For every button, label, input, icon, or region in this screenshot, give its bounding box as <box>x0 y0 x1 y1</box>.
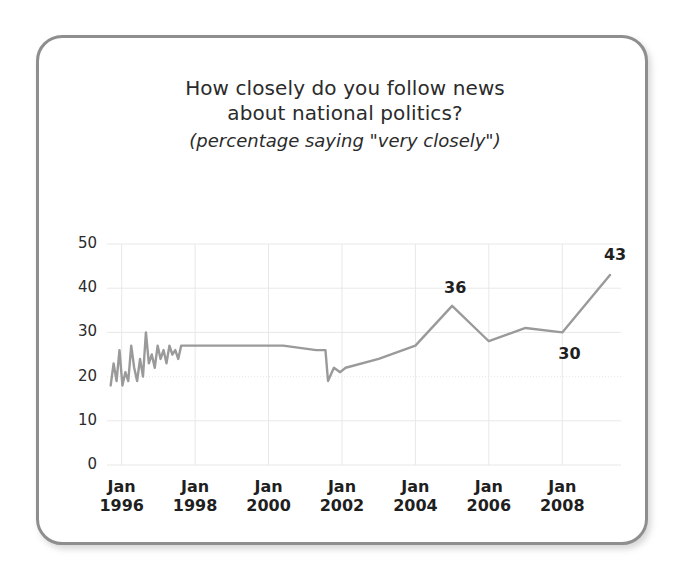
x-axis-tick-2004: Jan2004 <box>383 477 447 515</box>
x-tick-month: Jan <box>163 477 227 496</box>
horizontal-gridlines <box>107 244 621 465</box>
x-axis-tick-2008: Jan2008 <box>530 477 594 515</box>
x-axis-tick-2006: Jan2006 <box>457 477 521 515</box>
x-tick-year: 2006 <box>457 496 521 515</box>
vertical-gridlines <box>122 244 563 465</box>
y-axis-tick-30: 30 <box>63 324 97 339</box>
y-axis-tick-40: 40 <box>63 280 97 295</box>
trough-2008-label: 30 <box>558 346 580 362</box>
x-tick-year: 2002 <box>310 496 374 515</box>
x-tick-year: 1998 <box>163 496 227 515</box>
x-tick-month: Jan <box>90 477 154 496</box>
x-axis-tick-2000: Jan2000 <box>237 477 301 515</box>
x-tick-year: 2000 <box>237 496 301 515</box>
y-axis-tick-50: 50 <box>63 236 97 251</box>
plot-area: 01020304050 Jan1996Jan1998Jan2000Jan2002… <box>39 38 651 548</box>
y-axis-tick-10: 10 <box>63 413 97 428</box>
peak-2005-label: 36 <box>444 280 466 296</box>
x-tick-month: Jan <box>237 477 301 496</box>
x-tick-month: Jan <box>530 477 594 496</box>
x-axis-tick-1996: Jan1996 <box>90 477 154 515</box>
y-axis-tick-20: 20 <box>63 369 97 384</box>
x-axis-tick-1998: Jan1998 <box>163 477 227 515</box>
y-axis-tick-0: 0 <box>63 457 97 472</box>
end-2009-label: 43 <box>604 247 626 263</box>
x-tick-year: 2004 <box>383 496 447 515</box>
chart-canvas <box>39 38 651 548</box>
x-tick-month: Jan <box>383 477 447 496</box>
data-line-series <box>111 275 610 386</box>
x-tick-year: 2008 <box>530 496 594 515</box>
x-axis-tick-2002: Jan2002 <box>310 477 374 515</box>
x-tick-month: Jan <box>310 477 374 496</box>
x-tick-year: 1996 <box>90 496 154 515</box>
x-tick-month: Jan <box>457 477 521 496</box>
chart-frame: How closely do you follow news about nat… <box>36 35 648 545</box>
